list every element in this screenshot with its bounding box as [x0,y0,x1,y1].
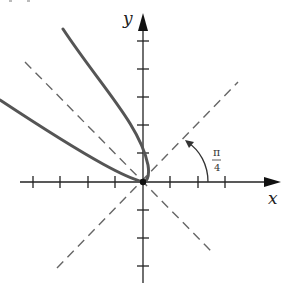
panel-label-fragment [9,0,30,2]
x-axis-arrow-icon [264,177,281,187]
svg-text:π: π [213,146,220,159]
svg-text:4: 4 [214,162,220,173]
y-axis [137,28,149,283]
dashed-line-y-equals-neg-x [25,62,212,252]
vertex-point [140,179,146,185]
rotated-parabola-figure: x y π 4 [0,0,284,294]
y-axis-label: y [122,8,133,28]
x-axis-label: x [268,188,278,208]
angle-label: π 4 [212,146,221,173]
y-axis-arrow-icon [138,13,148,31]
dashed-rotated-axes [25,62,238,268]
rotated-parabola-curve [0,29,149,182]
